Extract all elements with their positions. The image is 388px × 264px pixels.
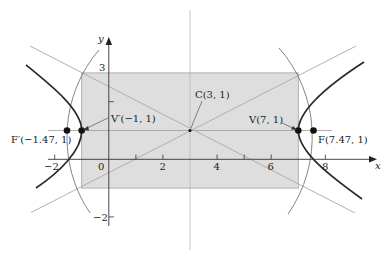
y-tick-label-3: 3 <box>99 62 105 73</box>
y-axis-label: y <box>97 33 104 44</box>
x-tick-label-4: 4 <box>214 161 220 172</box>
vertex-left-label: V′(−1, 1) <box>110 113 156 124</box>
y-tick-label-neg2: −2 <box>93 212 108 223</box>
x-axis-label: x <box>375 160 381 171</box>
x-tick-label-2: 2 <box>160 161 166 172</box>
center-point <box>188 129 191 132</box>
focus-left-label: F′(−1.47, 1) <box>11 134 71 145</box>
focus-right-point <box>310 127 317 134</box>
y-axis-arrow-icon <box>106 37 113 45</box>
x-tick-label-8: 8 <box>322 161 328 172</box>
x-tick-label-0: 0 <box>98 161 104 172</box>
focus-right-label: F(7.47, 1) <box>318 134 368 145</box>
vertex-right-point <box>295 127 302 134</box>
vertex-right-label: V(7, 1) <box>248 114 283 125</box>
x-tick-label-neg2: −2 <box>44 161 59 172</box>
vertex-left-point <box>78 127 85 134</box>
x-tick-label-6: 6 <box>268 161 274 172</box>
center-label: C(3, 1) <box>195 89 230 100</box>
hyperbola-diagram: y x 3 −2 −2 0 2 4 6 8 C(3, 1) V′(−1, 1) … <box>0 0 388 264</box>
focus-left-point <box>64 127 71 134</box>
